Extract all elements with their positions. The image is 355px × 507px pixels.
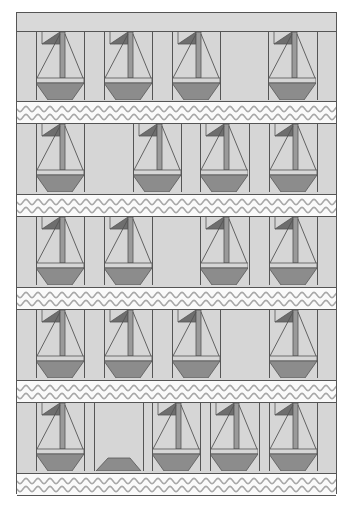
sashing-line	[269, 310, 270, 378]
sashing-line	[36, 32, 37, 100]
sashing-line	[200, 124, 201, 192]
sashing-line	[269, 124, 270, 192]
sashing-line	[133, 124, 134, 192]
wave-band	[17, 287, 336, 310]
sailboat-block	[269, 310, 317, 378]
sashing-line	[104, 32, 105, 100]
sashing-line	[249, 217, 250, 285]
sashing-line	[104, 310, 105, 378]
sashing-line	[152, 310, 153, 378]
sashing-line	[36, 217, 37, 285]
quilt-row-1	[17, 32, 336, 100]
sashing-line	[317, 32, 318, 100]
sailboat-block	[269, 403, 317, 471]
sashing-line	[220, 310, 221, 378]
sailboat-block	[36, 310, 84, 378]
sashing-line	[249, 124, 250, 192]
sailboat-block	[269, 124, 317, 192]
sashing-line	[84, 124, 85, 192]
sashing-line	[36, 310, 37, 378]
quilt-top-border	[17, 13, 336, 32]
quilt-row-3	[17, 217, 336, 285]
sailboat-block	[104, 32, 152, 100]
sashing-line	[200, 217, 201, 285]
wave-band	[17, 194, 336, 217]
sashing-line	[317, 310, 318, 378]
sailboat-block	[36, 32, 84, 100]
sashing-line	[172, 32, 173, 100]
sashing-line	[317, 403, 318, 471]
sailboat-block	[36, 403, 84, 471]
wave-band	[17, 101, 336, 124]
sashing-line	[181, 124, 182, 192]
sailboat-block	[172, 32, 220, 100]
hull-block	[94, 403, 143, 471]
sashing-line	[152, 217, 153, 285]
wave-band	[17, 380, 336, 403]
sailboat-block	[133, 124, 181, 192]
sashing-line	[268, 32, 269, 100]
sashing-line	[317, 124, 318, 192]
sailboat-block	[104, 310, 152, 378]
sailboat-block	[269, 217, 317, 285]
sashing-line	[36, 124, 37, 192]
sashing-line	[143, 403, 144, 471]
sashing-line	[210, 403, 211, 471]
sailboat-block	[152, 403, 200, 471]
quilt-row-5	[17, 403, 336, 471]
wave-band	[17, 473, 336, 496]
sashing-line	[104, 217, 105, 285]
sailboat-block	[210, 403, 258, 471]
sailboat-quilt	[16, 12, 337, 494]
sashing-line	[84, 32, 85, 100]
sailboat-block	[268, 32, 316, 100]
sailboat-block	[200, 217, 248, 285]
sashing-line	[220, 32, 221, 100]
sashing-line	[94, 403, 95, 471]
quilt-row-4	[17, 310, 336, 378]
sashing-line	[152, 32, 153, 100]
sashing-line	[269, 217, 270, 285]
sashing-line	[84, 217, 85, 285]
sailboat-block	[36, 217, 84, 285]
sailboat-block	[200, 124, 248, 192]
sailboat-block	[36, 124, 84, 192]
sashing-line	[317, 217, 318, 285]
sailboat-block	[104, 217, 152, 285]
sashing-line	[36, 403, 37, 471]
sashing-line	[84, 403, 85, 471]
sashing-line	[200, 403, 201, 471]
sailboat-block	[172, 310, 220, 378]
sashing-line	[84, 310, 85, 378]
sashing-line	[172, 310, 173, 378]
sashing-line	[152, 403, 153, 471]
sashing-line	[269, 403, 270, 471]
sashing-line	[259, 403, 260, 471]
quilt-row-2	[17, 124, 336, 192]
